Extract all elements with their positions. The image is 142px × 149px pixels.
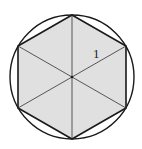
hexagon-diagram: 1 <box>0 0 142 149</box>
center-point <box>71 76 74 79</box>
radius-label: 1 <box>93 46 100 61</box>
